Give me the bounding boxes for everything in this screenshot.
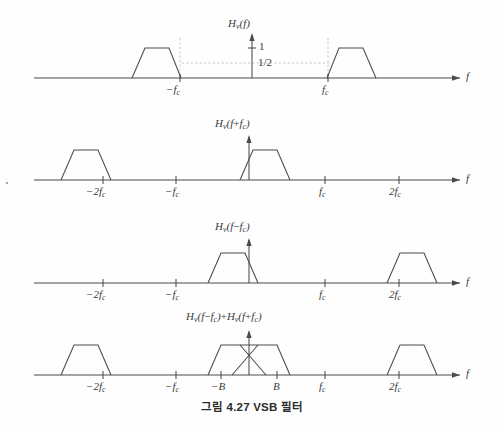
panel-1-yaxis-arrow [249, 33, 254, 41]
panel-4-tick-neg-2fc-sub: c [102, 385, 106, 394]
panel-2-title-h: H [215, 117, 223, 129]
vsb-filter-figure: Hv(f) 1 1/2 −fc fc f Hv(f+fc) −2fc −fc f… [0, 0, 504, 432]
panel-1-axis-label: f [466, 71, 469, 82]
panel-1-tick-label-pos-fc: fc [322, 84, 329, 97]
panel-2-tick-pos-2fc-base: 2f [389, 185, 398, 197]
panel-2-axis-arrow [452, 177, 460, 183]
panel-3-yaxis-arrow [246, 238, 251, 246]
panel-3-tick-pos-fc-sub: c [322, 293, 326, 302]
panel-1-tick-label-neg-fc: −fc [166, 84, 180, 97]
panel-2-tick-pos-fc-sub: c [322, 190, 326, 199]
panel-2-axis-label: f [466, 173, 469, 184]
panel-4-tick-label-pos-B: B [273, 381, 280, 392]
panel-4-crossover-edge-b [240, 345, 266, 375]
panel-4-axis-label: f [466, 368, 469, 379]
panel-1-title-h: H [228, 17, 236, 29]
panel-3-tick-label-neg-fc: −fc [165, 289, 179, 302]
panel-4-left-trapezoid [61, 345, 111, 375]
panel-2-tick-label-neg-2fc: −2fc [86, 186, 106, 199]
panel-4-tick-label-pos-2fc: 2fc [389, 381, 401, 394]
panel-1-tick-neg-fc-sub: c [176, 88, 180, 97]
panel-4-tick-label-neg-fc: −fc [165, 381, 179, 394]
panel-2-tick-label-neg-fc: −fc [165, 186, 179, 199]
panel-4-title-h1: H [186, 310, 194, 322]
panel-4-right-trapezoid [387, 345, 437, 375]
panel-2-tick-neg-fc-sub: c [175, 190, 179, 199]
panel-4-title-close2: ) [258, 310, 262, 322]
panel-3-tick-neg-fc-sub: c [175, 293, 179, 302]
panel-4-tick-pos-2fc-base: 2f [389, 380, 398, 392]
panel-3-title: Hv(f−fc) [215, 221, 250, 234]
panel-4-crossover-edge-a [232, 345, 258, 375]
panel-4-tick-label-neg-2fc: −2fc [86, 381, 106, 394]
panel-2-yaxis-arrow [246, 135, 251, 143]
panel-3-title-close: ) [246, 220, 250, 232]
panel-4-title: Hv(f−fc)+Hv(f+fc) [186, 311, 262, 324]
panel-4-axis-arrow [452, 372, 460, 378]
panel-2-title-close: ) [246, 117, 250, 129]
panel-1-title: Hv(f) [228, 18, 250, 31]
panel-4-tick-pos-2fc-sub: c [398, 385, 402, 394]
panel-4-tick-neg-2fc-base: −2f [86, 380, 102, 392]
panel-1-amp-half-label: 1/2 [258, 57, 272, 68]
panel-2-group [34, 135, 460, 184]
panel-1-amp-one-label: 1 [259, 41, 265, 52]
panel-2-tick-label-pos-fc: fc [319, 186, 326, 199]
page-speck [6, 182, 8, 184]
panel-3-tick-label-pos-fc: fc [319, 289, 326, 302]
figure-caption: 그림 4.27 VSB 필터 [0, 398, 504, 414]
panel-4-yaxis-arrow [246, 330, 251, 338]
panel-1-tick-neg-fc-base: −f [166, 83, 176, 95]
panel-1-group [34, 33, 460, 82]
panel-4-tick-label-neg-B: −B [211, 381, 225, 392]
panel-2-tick-neg-2fc-sub: c [102, 190, 106, 199]
panel-1-title-tail: (f) [239, 17, 249, 29]
panel-1-tick-pos-fc-sub: c [325, 88, 329, 97]
panel-3-tick-neg-2fc-base: −2f [86, 288, 102, 300]
panel-2-tick-label-pos-2fc: 2fc [389, 186, 401, 199]
panel-3-center-trapezoid [208, 253, 258, 283]
panel-3-title-h: H [215, 220, 223, 232]
panel-3-axis-label: f [466, 276, 469, 287]
panel-3-tick-label-pos-2fc: 2fc [389, 289, 401, 302]
panel-4-group [34, 330, 460, 379]
plot-drawing-layer [0, 0, 504, 432]
panel-2-left-trapezoid [61, 150, 111, 180]
panel-2-center-trapezoid [240, 150, 290, 180]
panel-1-left-trapezoid [132, 48, 181, 78]
panel-4-title-h2: H [227, 310, 235, 322]
panel-3-right-trapezoid [387, 253, 437, 283]
panel-3-tick-neg-2fc-sub: c [102, 293, 106, 302]
panel-3-axis-arrow [452, 280, 460, 286]
panel-3-group [34, 238, 460, 287]
panel-3-tick-neg-fc-base: −f [165, 288, 175, 300]
panel-4-tick-neg-fc-sub: c [175, 385, 179, 394]
panel-2-tick-neg-2fc-base: −2f [86, 185, 102, 197]
panel-3-tick-pos-2fc-base: 2f [389, 288, 398, 300]
panel-2-title: Hv(f+fc) [215, 118, 250, 131]
panel-4-tick-label-pos-fc: fc [319, 381, 326, 394]
panel-2-tick-pos-2fc-sub: c [398, 190, 402, 199]
panel-2-tick-neg-fc-base: −f [165, 185, 175, 197]
panel-1-axis-arrow [452, 75, 460, 81]
panel-4-tick-pos-fc-sub: c [322, 385, 326, 394]
panel-1-right-trapezoid [327, 48, 376, 78]
panel-4-tick-neg-fc-base: −f [165, 380, 175, 392]
panel-3-tick-label-neg-2fc: −2fc [86, 289, 106, 302]
panel-3-tick-pos-2fc-sub: c [398, 293, 402, 302]
